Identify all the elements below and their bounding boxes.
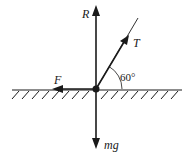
force-mg-arrowhead-icon (92, 138, 100, 149)
label-R: R (82, 8, 89, 20)
label-F: F (54, 74, 61, 86)
particle-dot (93, 86, 100, 93)
force-T-arrowhead-icon (120, 35, 129, 45)
label-T: T (133, 37, 140, 49)
force-R-arrowhead-icon (92, 5, 100, 16)
free-body-diagram: R T F mg 60° (0, 0, 190, 158)
diagram-canvas (0, 0, 190, 158)
label-mg: mg (104, 139, 119, 151)
label-angle: 60° (120, 72, 135, 83)
